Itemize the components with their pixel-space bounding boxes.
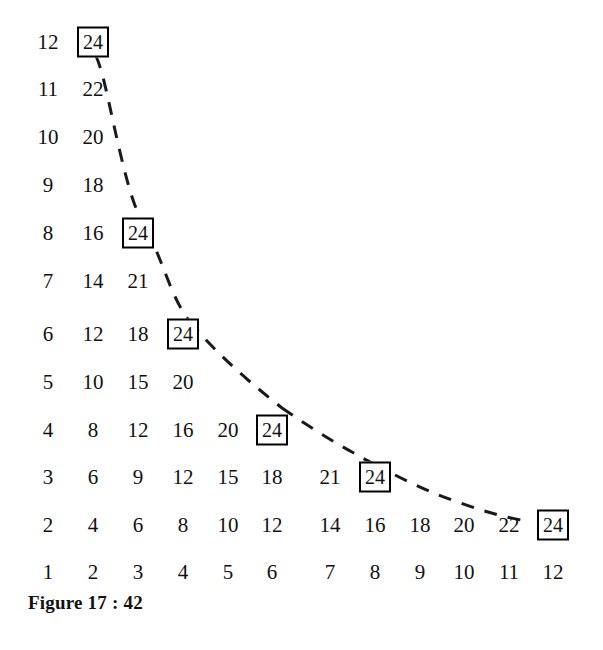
caption-layer: Figure 17 : 42 xyxy=(0,0,603,650)
figure-caption: Figure 17 : 42 xyxy=(28,592,143,614)
figure-container: 1224112210209188162471421612182451015204… xyxy=(0,0,603,650)
